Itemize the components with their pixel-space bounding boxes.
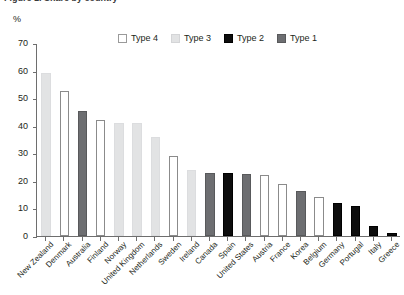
bar-spain bbox=[223, 173, 232, 236]
legend-swatch-icon bbox=[224, 34, 233, 43]
y-tick-label: 0 bbox=[23, 231, 28, 241]
bar-greece bbox=[387, 233, 396, 236]
x-axis-line bbox=[36, 236, 400, 237]
legend-item-label: Type 3 bbox=[184, 33, 211, 43]
y-tick-label: 10 bbox=[18, 203, 28, 213]
bar-united-states bbox=[242, 174, 251, 236]
bar-sweden bbox=[169, 156, 178, 236]
y-tick-label: 40 bbox=[18, 121, 28, 131]
bar-france bbox=[278, 184, 287, 236]
legend-item-t4[interactable]: Type 4 bbox=[118, 33, 158, 43]
y-axis-unit-label: % bbox=[13, 14, 21, 24]
legend-item-label: Type 4 bbox=[131, 33, 158, 43]
legend-item-label: Type 2 bbox=[237, 33, 264, 43]
legend-swatch-icon bbox=[277, 34, 286, 43]
legend-swatch-icon bbox=[171, 34, 180, 43]
bar-denmark bbox=[60, 91, 69, 236]
legend-item-t2[interactable]: Type 2 bbox=[224, 33, 264, 43]
bar-portugal bbox=[351, 206, 360, 236]
bar-chart-figure: Figure 1. Share by country % Type 4Type … bbox=[0, 0, 404, 295]
bar-netherlands bbox=[151, 137, 160, 236]
bar-series bbox=[37, 44, 400, 236]
bar-austria bbox=[260, 175, 269, 236]
bar-germany bbox=[333, 203, 342, 236]
y-tick-label: 20 bbox=[18, 176, 28, 186]
figure-title-text: Figure 1. Share by country bbox=[0, 0, 404, 4]
legend-swatch-icon bbox=[118, 34, 127, 43]
clipped-figure-title: Figure 1. Share by country bbox=[0, 0, 404, 4]
x-axis-category-labels: New ZealandDenmarkAustraliaFinlandNorway… bbox=[36, 240, 400, 295]
chart-legend: Type 4Type 3Type 2Type 1 bbox=[118, 33, 317, 43]
bar-finland bbox=[96, 120, 105, 236]
bar-australia bbox=[78, 111, 87, 236]
bar-norway bbox=[114, 123, 123, 236]
bar-new-zealand bbox=[41, 73, 50, 236]
legend-item-t1[interactable]: Type 1 bbox=[277, 33, 317, 43]
legend-item-t3[interactable]: Type 3 bbox=[171, 33, 211, 43]
y-tick: 0 bbox=[33, 237, 37, 238]
y-tick-label: 50 bbox=[18, 93, 28, 103]
y-tick-label: 60 bbox=[18, 66, 28, 76]
bar-korea bbox=[296, 191, 305, 236]
legend-item-label: Type 1 bbox=[290, 33, 317, 43]
plot-area: 010203040506070 bbox=[36, 44, 400, 237]
bar-italy bbox=[369, 226, 378, 236]
y-tick-label: 70 bbox=[18, 38, 28, 48]
bar-united-kingdom bbox=[132, 123, 141, 236]
bar-belgium bbox=[314, 197, 323, 236]
y-tick-label: 30 bbox=[18, 148, 28, 158]
bar-ireland bbox=[187, 170, 196, 236]
bar-canada bbox=[205, 173, 214, 236]
